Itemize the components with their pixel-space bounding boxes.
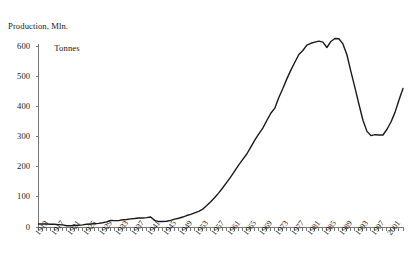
y-tick-label: 600 (2, 42, 30, 51)
series-line-production (39, 38, 404, 225)
y-tick-label: 100 (2, 192, 30, 201)
tick-marks-group (36, 46, 404, 231)
y-tick-label: 300 (2, 132, 30, 141)
y-tick-label: 200 (2, 162, 30, 171)
axes-group (39, 44, 404, 227)
y-tick-label: 0 (2, 223, 30, 232)
chart-svg (0, 0, 410, 257)
chart-container: Production, Mln. Tonnes 0100200300400500… (0, 0, 410, 257)
data-series-group (39, 38, 404, 225)
plot-area: 0100200300400500600 19131917192119251929… (0, 0, 410, 257)
y-tick-label: 400 (2, 102, 30, 111)
y-tick-label: 500 (2, 72, 30, 81)
